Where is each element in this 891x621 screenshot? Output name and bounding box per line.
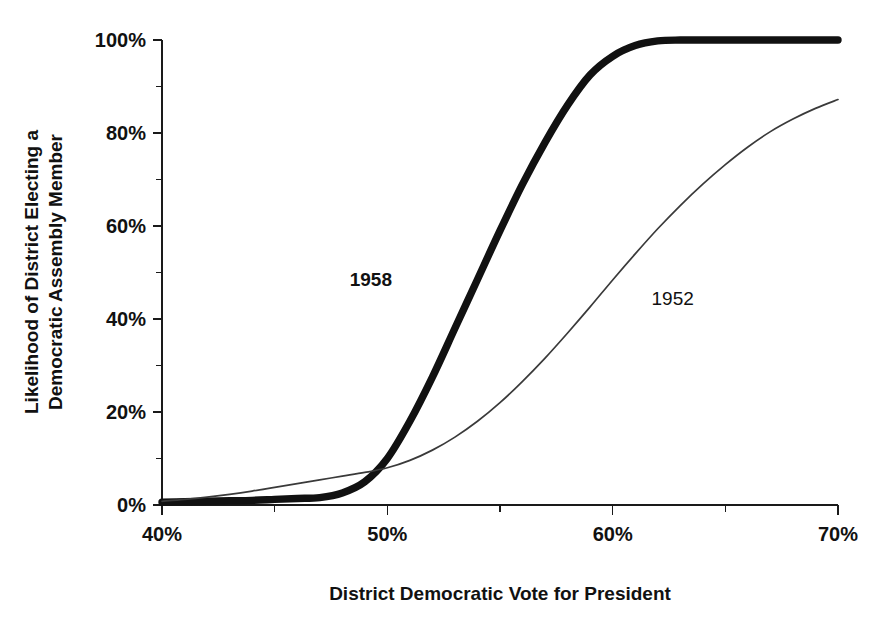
x-tick-label: 40% <box>142 523 182 545</box>
x-axis-tick-labels: 40%50%60%70% <box>142 523 858 545</box>
chart-figure: 0%20%40%60%80%100% 40%50%60%70% 1958 195… <box>0 0 891 621</box>
y-tick-label: 80% <box>106 122 146 144</box>
x-axis-title: District Democratic Vote for President <box>329 583 671 604</box>
y-tick-label: 40% <box>106 308 146 330</box>
y-axis-tick-labels: 0%20%40%60%80%100% <box>95 29 146 516</box>
series-line-1952 <box>162 100 838 502</box>
x-tick-label: 60% <box>593 523 633 545</box>
y-tick-label: 0% <box>117 494 146 516</box>
x-tick-label: 50% <box>367 523 407 545</box>
axes-group <box>162 40 838 505</box>
series-label-1958: 1958 <box>350 269 392 290</box>
data-series-group <box>162 40 838 502</box>
x-axis-ticks <box>162 505 838 515</box>
x-tick-label: 70% <box>818 523 858 545</box>
y-axis-title-line-1: Likelihood of District Electing a <box>21 130 42 414</box>
chart-canvas: 0%20%40%60%80%100% 40%50%60%70% 1958 195… <box>0 0 891 621</box>
y-tick-label: 20% <box>106 401 146 423</box>
y-tick-label: 100% <box>95 29 146 51</box>
series-line-1958 <box>162 40 838 502</box>
y-axis-title-line-2: Democratic Assembly Member <box>45 133 66 410</box>
y-tick-label: 60% <box>106 215 146 237</box>
y-axis-ticks <box>153 40 162 505</box>
series-label-1952: 1952 <box>652 288 694 309</box>
